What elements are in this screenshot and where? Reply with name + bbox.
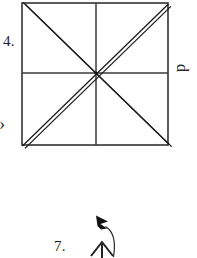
left-edge-marker: › [0,114,5,133]
worksheet-page: 4. 7. d › [0,0,197,258]
figure-number-label-7: 7. [54,239,66,254]
geometry-figure-canvas [0,0,197,258]
figure-7-group [91,216,114,258]
figure-4-group [22,2,172,148]
figure-number-label-4: 4. [3,34,15,49]
center-point [94,71,97,74]
side-length-label-d: d [174,64,190,72]
diagonal-tl-br [23,2,172,146]
